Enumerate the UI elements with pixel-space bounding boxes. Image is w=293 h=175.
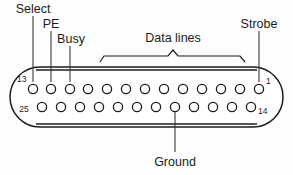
pin-8 <box>121 84 130 93</box>
pin-13 <box>28 84 37 93</box>
pin-3 <box>216 84 225 93</box>
pin-12 <box>46 84 55 93</box>
pin-14 <box>246 102 255 111</box>
pin-number-top-right: 1 <box>266 76 271 86</box>
label-busy: Busy <box>57 32 86 46</box>
data-lines-brace <box>100 50 245 62</box>
pin-number-top-left: 13 <box>17 74 27 84</box>
label-strobe: Strobe <box>241 17 278 31</box>
pin-7 <box>140 84 149 93</box>
pin-25 <box>37 102 46 111</box>
pin-11 <box>65 84 74 93</box>
pin-2 <box>235 84 244 93</box>
pin-5 <box>178 84 187 93</box>
pin-number-bottom-left: 25 <box>19 104 29 114</box>
pin-4 <box>197 84 206 93</box>
pin-15 <box>227 102 236 111</box>
pin-1 <box>254 84 263 93</box>
label-select: Select <box>16 2 51 16</box>
pin-22 <box>94 102 103 111</box>
pin-24 <box>56 102 65 111</box>
label-pe: PE <box>43 17 60 31</box>
pin-18 <box>170 102 179 111</box>
connector-pinout-diagram: 13 1 25 14 Select PE Busy Data lines Str… <box>0 0 293 175</box>
label-data-lines: Data lines <box>145 31 201 45</box>
diagram-canvas: 13 1 25 14 Select PE Busy Data lines Str… <box>0 0 293 175</box>
pin-9 <box>102 84 111 93</box>
pin-17 <box>189 102 198 111</box>
pin-6 <box>159 84 168 93</box>
pin-20 <box>132 102 141 111</box>
pin-16 <box>208 102 217 111</box>
label-ground: Ground <box>154 155 196 169</box>
pin-10 <box>83 84 92 93</box>
pin-23 <box>75 102 84 111</box>
pin-19 <box>151 102 160 111</box>
pin-number-bottom-right: 14 <box>258 106 268 116</box>
pin-21 <box>113 102 122 111</box>
